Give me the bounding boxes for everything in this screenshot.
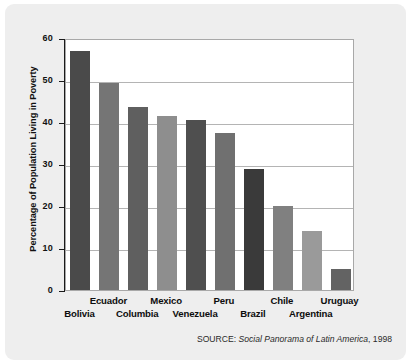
x-label-uruguay: Uruguay	[321, 295, 359, 306]
x-label-chile: Chile	[270, 295, 293, 306]
x-label-argentina: Argentina	[289, 308, 332, 319]
x-label-ecuador: Ecuador	[90, 295, 127, 306]
y-tick-mark	[59, 165, 64, 166]
y-tick-mark	[59, 207, 64, 208]
bar-mexico	[157, 116, 177, 290]
bar-ecuador	[99, 83, 119, 290]
y-tick-label: 50	[23, 75, 53, 85]
y-tick-mark	[59, 39, 64, 40]
bar-argentina	[302, 231, 322, 290]
plot-area	[65, 39, 354, 291]
source-suffix: , 1998	[368, 334, 392, 344]
y-tick-mark	[59, 249, 64, 250]
x-label-columbia: Columbia	[116, 308, 159, 319]
source-prefix: SOURCE:	[197, 334, 239, 344]
bar-peru	[215, 133, 235, 291]
y-tick-label: 60	[23, 33, 53, 43]
bar-venezuela	[186, 120, 206, 290]
source-title: Social Panorama of Latin America	[238, 334, 368, 344]
y-tick-mark	[59, 81, 64, 82]
y-tick-label: 0	[23, 285, 53, 295]
x-label-venezuela: Venezuela	[173, 308, 218, 319]
y-tick-label: 20	[23, 201, 53, 211]
bar-chile	[273, 206, 293, 290]
bar-brazil	[244, 169, 264, 290]
figure-card: Percentage of Population Living in Pover…	[5, 4, 406, 360]
bar-bolivia	[70, 51, 90, 290]
y-tick-label: 30	[23, 159, 53, 169]
source-note: SOURCE: Social Panorama of Latin America…	[197, 334, 392, 344]
y-tick-label: 40	[23, 117, 53, 127]
y-tick-label: 10	[23, 243, 53, 253]
x-label-mexico: Mexico	[150, 295, 182, 306]
y-tick-mark	[59, 291, 64, 292]
bar-columbia	[128, 107, 148, 290]
x-label-bolivia: Bolivia	[64, 308, 94, 319]
x-label-brazil: Brazil	[240, 308, 265, 319]
y-tick-mark	[59, 123, 64, 124]
x-label-peru: Peru	[214, 295, 235, 306]
bar-uruguay	[331, 269, 351, 290]
